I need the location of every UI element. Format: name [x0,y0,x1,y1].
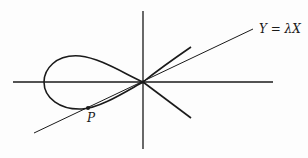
point-p-label: P [87,111,95,125]
line-equation-label: Y = λX [259,22,301,36]
diagram-canvas: Y = λX P [0,0,308,158]
curve-branch-lower [143,82,191,118]
curve-branch-upper [143,47,191,82]
point-p-marker [86,106,90,110]
origin-marker [141,80,144,83]
